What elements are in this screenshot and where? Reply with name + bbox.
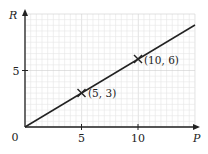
x-tick-label-10: 10 [131,132,145,145]
grid [25,14,195,127]
chart: 0 5 10 5 P R (5, 3) (10, 6) [0,0,208,154]
point-label-5-3: (5, 3) [88,87,116,99]
y-tick-label-5: 5 [13,65,20,78]
x-axis-label: P [192,132,201,145]
origin-label: 0 [12,131,19,144]
x-axis-arrow-icon [193,124,200,130]
y-axis-label: R [8,9,17,22]
x-tick-label-5: 5 [78,132,85,145]
y-axis-arrow-icon [22,9,28,16]
point-label-10-6: (10, 6) [144,54,179,66]
